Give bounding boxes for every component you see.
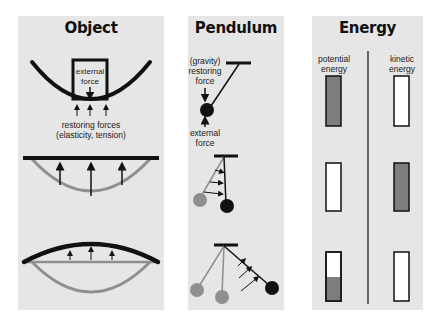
- pendulum-overshoot: [190, 245, 279, 304]
- pendulum-displaced: (gravity) restoring force external force: [188, 56, 251, 148]
- svg-text:force: force: [196, 76, 215, 86]
- potential-bar-1: [326, 76, 341, 126]
- svg-text:(elasticity, tension): (elasticity, tension): [56, 130, 126, 140]
- membrane-flat: [23, 158, 159, 196]
- svg-text:external: external: [76, 67, 105, 76]
- pendulum-swinging: [193, 156, 238, 213]
- svg-text:energy: energy: [321, 64, 348, 74]
- svg-text:external: external: [190, 128, 220, 138]
- svg-text:potential: potential: [318, 54, 350, 64]
- svg-text:(gravity): (gravity): [190, 56, 221, 66]
- svg-text:restoring: restoring: [188, 66, 221, 76]
- pendulum-panel: Pendulum (gravity) restoring force exter…: [188, 16, 284, 310]
- kinetic-bar-3: [394, 252, 409, 301]
- membrane-overshoot: [24, 244, 158, 292]
- svg-text:energy: energy: [389, 64, 416, 74]
- object-diagram: external force restoring forces (elastic…: [18, 16, 164, 310]
- energy-panel: Energy potential energy kinetic energy: [312, 16, 423, 310]
- svg-text:kinetic: kinetic: [390, 54, 415, 64]
- membrane-with-box: external force restoring forces (elastic…: [32, 60, 150, 140]
- svg-text:force: force: [81, 77, 99, 86]
- svg-text:force: force: [196, 138, 215, 148]
- energy-diagram: potential energy kinetic energy: [312, 16, 423, 310]
- kinetic-bar-2: [394, 163, 409, 211]
- pendulum-diagram: (gravity) restoring force external force: [188, 16, 284, 310]
- kinetic-bar-1: [394, 76, 409, 126]
- object-panel: Object external force restoring forces (…: [18, 16, 164, 310]
- potential-bar-2: [326, 163, 341, 211]
- svg-text:restoring forces: restoring forces: [62, 120, 121, 130]
